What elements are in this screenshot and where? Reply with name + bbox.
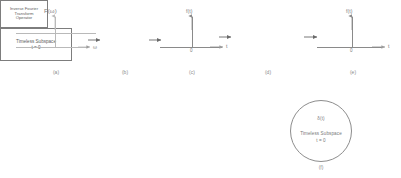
figure-canvas: F(ω) ω (a) Inverse Fourier Transform Ope… — [0, 0, 401, 178]
arrow-overlay — [0, 0, 401, 178]
